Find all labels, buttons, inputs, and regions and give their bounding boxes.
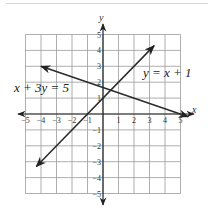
y-tick-label: 3 [97, 62, 101, 71]
x-tick-label: 1 [117, 116, 121, 125]
equation-label-x-plus-3y-equals-5: x + 3y = 5 [13, 80, 70, 95]
y-tick-label: −4 [92, 174, 101, 183]
y-axis-label: y [98, 12, 104, 23]
coordinate-plane: −5−4−3−2−11234554321−1−2−3−4−5 y x y = x… [0, 0, 208, 218]
y-tick-label: −1 [92, 126, 101, 135]
x-axis-label: x [191, 104, 197, 115]
x-tick-label: −5 [21, 116, 30, 125]
y-tick-label: 5 [97, 31, 101, 40]
x-tick-label: −3 [52, 116, 61, 125]
equation-label-y-equals-x-plus-1: y = x + 1 [141, 65, 192, 80]
y-tick-label: −5 [92, 190, 101, 199]
y-tick-label: −2 [92, 142, 101, 151]
plotted-lines [36, 46, 188, 167]
x-tick-label: 5 [179, 116, 183, 125]
x-tick-label: 2 [132, 116, 136, 125]
x-tick-label: −4 [37, 116, 46, 125]
x-tick-label: 3 [148, 116, 152, 125]
x-tick-label: −2 [68, 116, 77, 125]
x-tick-label: 4 [163, 116, 167, 125]
y-tick-label: −3 [92, 158, 101, 167]
y-tick-label: 4 [97, 46, 101, 55]
